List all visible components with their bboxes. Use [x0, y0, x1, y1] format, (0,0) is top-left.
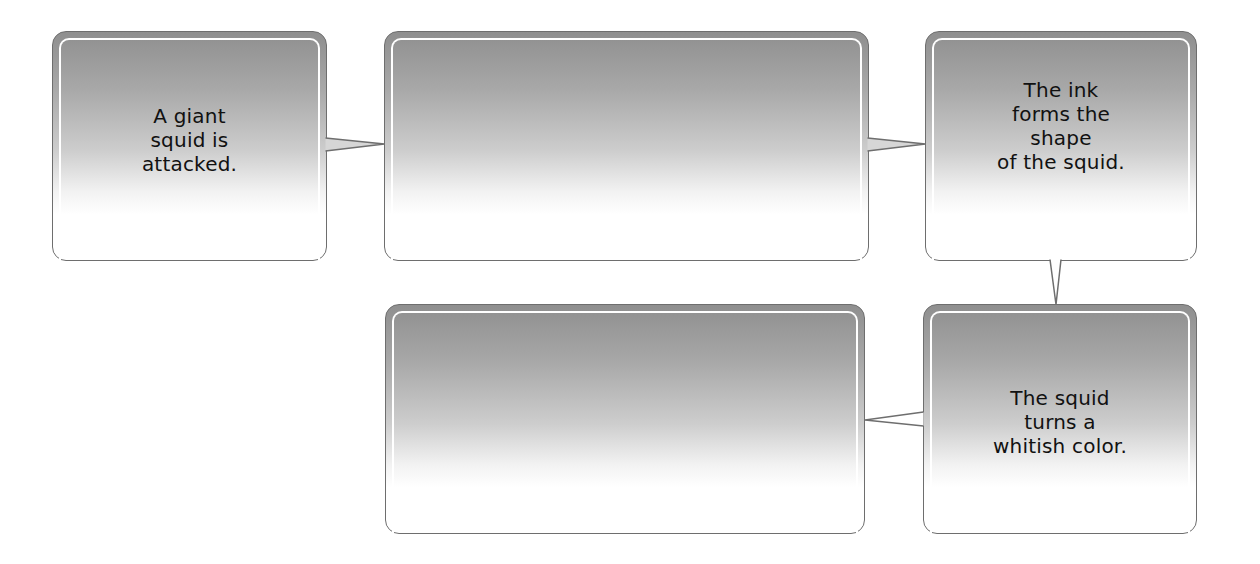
flow-box-3: The ink forms the shape of the squid. — [925, 31, 1197, 261]
flow-box-1: A giant squid is attacked. — [52, 31, 327, 261]
flow-box-5: The squid turns a whitish color. — [923, 304, 1197, 534]
flow-box-3-text: The ink forms the shape of the squid. — [926, 78, 1196, 174]
connector-arrow-1-to-2 — [326, 138, 385, 151]
connector-arrow-2-to-3 — [868, 138, 926, 151]
flow-box-5-text: The squid turns a whitish color. — [924, 386, 1196, 458]
flow-box-1-text: A giant squid is attacked. — [53, 104, 326, 176]
connector-arrow-3-to-5 — [1050, 260, 1061, 305]
flow-box-2-empty[interactable] — [384, 31, 869, 261]
flow-box-4-empty[interactable] — [385, 304, 865, 534]
connector-arrow-5-to-4 — [865, 412, 924, 426]
